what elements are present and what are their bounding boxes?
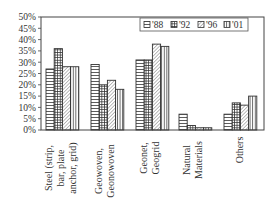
legend-label: '92 xyxy=(179,20,190,30)
legend-swatch xyxy=(224,22,230,28)
y-tick-label: 45% xyxy=(19,24,37,34)
bar xyxy=(99,85,107,130)
bar xyxy=(91,64,99,130)
bar xyxy=(152,44,160,130)
y-tick-label: 50% xyxy=(19,12,37,22)
bar xyxy=(54,49,62,130)
bar-series xyxy=(46,44,257,130)
x-axis-labels: Steel (strip,bar, plateanchor, grid)Geow… xyxy=(43,137,245,198)
y-tick-label: 15% xyxy=(19,91,37,101)
bar xyxy=(62,67,70,130)
y-tick-label: 20% xyxy=(19,80,37,90)
x-category-label: Geogrid xyxy=(150,142,161,175)
bar xyxy=(224,114,232,130)
x-category-label: Geonet, xyxy=(138,142,149,173)
y-tick-label: 25% xyxy=(19,69,37,79)
x-category-label: anchor, grid) xyxy=(67,142,79,193)
legend-label: '96 xyxy=(206,20,217,30)
y-axis: 0%5%10%15%20%25%30%35%40%45%50% xyxy=(19,12,41,135)
y-tick-label: 0% xyxy=(23,125,36,135)
legend-label: '01 xyxy=(232,20,243,30)
x-category-label: Geowoven, xyxy=(93,148,104,194)
bar xyxy=(144,60,152,130)
y-tick-label: 5% xyxy=(23,114,36,124)
x-category-label: Others xyxy=(234,137,245,164)
legend: '88'92'96'01 xyxy=(140,18,248,31)
bar xyxy=(232,103,240,130)
bar xyxy=(240,105,248,130)
bar xyxy=(71,67,79,130)
bar xyxy=(161,46,169,130)
bar xyxy=(179,114,187,130)
x-category-label: Steel (strip, xyxy=(43,145,55,191)
legend-swatch xyxy=(198,22,204,28)
y-tick-label: 30% xyxy=(19,58,37,68)
bar xyxy=(116,89,124,130)
x-category-label: Natural xyxy=(181,145,192,175)
bar-chart: 0%5%10%15%20%25%30%35%40%45%50% '88'92'9… xyxy=(0,0,271,207)
bar xyxy=(107,80,115,130)
y-tick-label: 10% xyxy=(19,103,37,113)
bar xyxy=(136,60,144,130)
legend-swatch xyxy=(144,22,150,28)
y-tick-label: 40% xyxy=(19,35,37,45)
legend-swatch xyxy=(171,22,177,28)
y-tick-label: 35% xyxy=(19,46,37,56)
x-category-label: bar, plate xyxy=(55,149,66,186)
x-category-label: Geonowoven xyxy=(105,144,116,197)
bar xyxy=(46,69,54,130)
x-category-label: Materials xyxy=(193,141,204,179)
bar xyxy=(249,96,257,130)
legend-label: '88 xyxy=(152,20,163,30)
bar xyxy=(187,125,195,130)
